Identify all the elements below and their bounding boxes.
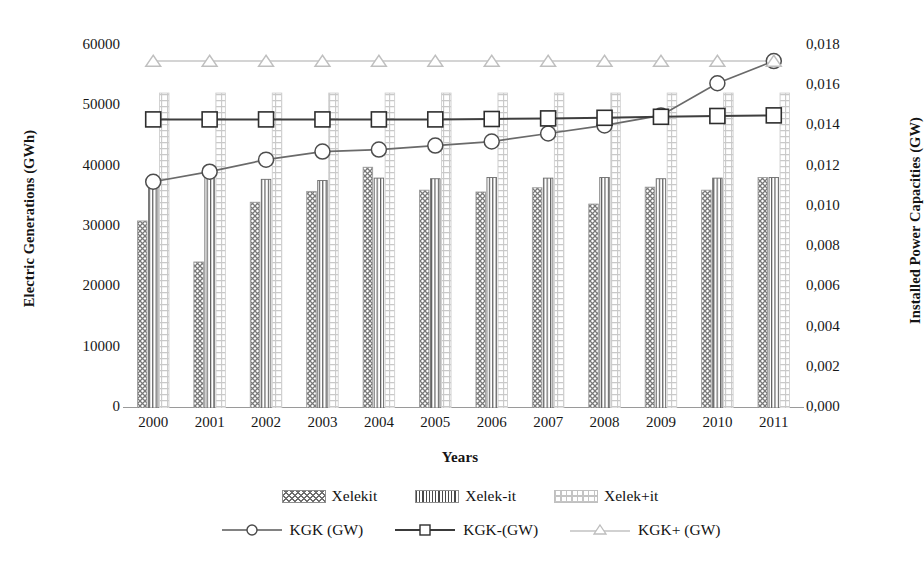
plot-svg — [125, 46, 802, 408]
bar-xelekit-2005 — [420, 190, 430, 408]
bar-xelek-it-2005 — [442, 93, 452, 408]
light-grid-swatch-icon — [554, 490, 598, 503]
triangle-marker-line-icon — [568, 522, 632, 538]
marker-square-2010 — [710, 108, 725, 123]
bar-xelekit-2010 — [702, 190, 712, 408]
marker-circle-2005 — [428, 138, 443, 153]
bar-xelek-it-2003 — [318, 181, 328, 408]
lines-layer — [153, 61, 774, 182]
marker-square-2006 — [484, 112, 499, 127]
bar-xelekit-2004 — [363, 167, 373, 408]
bar-xelekit-2002 — [250, 202, 260, 408]
bar-xelek-it-2008 — [611, 93, 621, 408]
legend-label-kgk-plus: KGK+ (GW) — [638, 521, 720, 539]
marker-circle-2001 — [202, 164, 217, 179]
square-marker-line-icon — [393, 522, 457, 538]
legend-row-bars: Xelekit Xelek-it Xelek+it — [150, 487, 790, 505]
marker-square-2004 — [371, 112, 386, 127]
marker-circle-2000 — [146, 174, 161, 189]
marker-square-2005 — [428, 112, 443, 127]
legend-item-xelek-plus-it[interactable]: Xelek+it — [554, 487, 658, 505]
legend-item-kgk[interactable]: KGK (GW) — [220, 521, 364, 539]
bar-xelekit-2011 — [758, 178, 768, 408]
legend-label-xelek-minus-it: Xelek-it — [465, 487, 516, 505]
bar-xelekit-2001 — [194, 262, 204, 408]
bar-xelek-it-2009 — [667, 93, 677, 408]
bar-xelek-it-2004 — [374, 178, 384, 408]
vertical-lines-swatch-icon — [415, 490, 459, 503]
bar-xelek-it-2000 — [159, 93, 169, 408]
marker-square-2000 — [146, 112, 161, 127]
bar-xelek-it-2002 — [272, 93, 282, 408]
bar-xelekit-2003 — [307, 191, 317, 408]
marker-square-2003 — [315, 112, 330, 127]
legend-label-xelekit: Xelekit — [332, 487, 378, 505]
bar-xelek-it-2011 — [780, 93, 790, 408]
bar-xelek-it-2005 — [431, 179, 441, 408]
legend-item-xelek-minus-it[interactable]: Xelek-it — [415, 487, 516, 505]
legend-item-xelekit[interactable]: Xelekit — [282, 487, 378, 505]
marker-square-2009 — [653, 109, 668, 124]
marker-circle-2002 — [259, 152, 274, 167]
bar-xelek-it-2004 — [385, 93, 395, 408]
bar-xelekit-2009 — [645, 187, 655, 408]
legend-item-kgk-minus[interactable]: KGK-(GW) — [393, 521, 538, 539]
line-kgk-gw- — [153, 61, 774, 182]
cross-hatch-swatch-icon — [282, 490, 326, 503]
bar-xelek-it-2008 — [600, 178, 610, 408]
bar-xelek-it-2010 — [713, 178, 723, 408]
bar-xelek-it-2009 — [656, 179, 666, 408]
markers-layer — [146, 54, 782, 190]
marker-circle-2007 — [541, 126, 556, 141]
marker-square-2008 — [597, 110, 612, 125]
bar-xelek-it-2001 — [216, 93, 226, 408]
bar-xelek-it-2003 — [329, 93, 339, 408]
bar-xelekit-2007 — [532, 188, 542, 408]
legend-label-xelek-plus-it: Xelek+it — [604, 487, 658, 505]
x-tick-2011: 2011 — [739, 414, 809, 431]
line-kgk-gw- — [153, 115, 774, 119]
bar-xelek-it-2011 — [769, 178, 779, 408]
bar-xelek-it-2001 — [205, 172, 215, 408]
bar-xelek-it-2010 — [724, 93, 734, 408]
legend-label-kgk: KGK (GW) — [290, 521, 364, 539]
bar-xelek-it-2007 — [554, 93, 564, 408]
bars-layer — [137, 93, 789, 408]
marker-square-2011 — [766, 108, 781, 123]
bar-xelekit-2008 — [589, 204, 599, 408]
marker-square-2007 — [541, 111, 556, 126]
legend-label-kgk-minus: KGK-(GW) — [463, 521, 538, 539]
marker-square-2002 — [259, 112, 274, 127]
bar-xelek-it-2007 — [543, 178, 553, 408]
marker-circle-2004 — [371, 142, 386, 157]
bar-xelek-it-2006 — [487, 178, 497, 408]
bar-xelekit-2000 — [137, 221, 146, 408]
chart-legend: Xelekit Xelek-it Xelek+it KGK (GW) — [150, 487, 790, 557]
circle-marker-line-icon — [220, 522, 284, 538]
bar-xelekit-2006 — [476, 192, 486, 408]
plot-area — [125, 46, 802, 408]
marker-circle-2010 — [710, 76, 725, 91]
legend-row-lines: KGK (GW) KGK-(GW) KGK+ ( — [150, 521, 790, 539]
bar-xelek-it-2000 — [148, 182, 158, 408]
legend-item-kgk-plus[interactable]: KGK+ (GW) — [568, 521, 720, 539]
marker-circle-2006 — [484, 134, 499, 149]
marker-circle-2003 — [315, 144, 330, 159]
bar-xelek-it-2002 — [261, 179, 271, 408]
marker-square-2001 — [202, 112, 217, 127]
